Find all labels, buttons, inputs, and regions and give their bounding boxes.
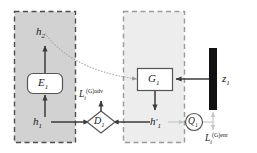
label-h1-prime-sub: 1 [157,122,161,130]
label-q-network-base: Q [188,116,195,126]
label-h1-prime: h′1 [150,115,161,130]
label-ent-loss-sup: (G)ent [212,132,228,138]
label-generator: G1 [148,72,159,87]
label-encoder: E1 [38,76,48,91]
label-discriminator: D1 [94,115,104,128]
label-adv-loss-sub: i [84,95,86,101]
label-h2-sub: 2 [42,32,46,40]
label-encoder-sub: 1 [45,83,49,91]
label-adv-loss-sup: (G)adv [86,88,103,94]
label-generator-sub: 1 [156,79,160,87]
z1-latent-block [209,48,217,110]
label-encoder-base: E [38,76,45,88]
label-q-network: Q1 [188,116,198,128]
label-adversarial-loss: Li(G)adv [79,88,103,101]
label-h1: h1 [33,115,42,130]
label-generator-base: G [148,72,156,84]
label-ent-loss-sub: i [210,139,212,145]
diagram-canvas: h2 E1 h1 G1 h′1 z1 D1 Q1 Li(G)adv Li(G)e… [0,0,257,153]
label-entropy-loss: Li(G)ent [205,132,228,145]
label-h1-sub: 1 [39,122,43,130]
label-z1: z1 [222,72,230,87]
label-h2: h2 [36,25,45,40]
label-z1-sub: 1 [226,79,230,87]
label-q-network-sub: 1 [195,122,198,128]
label-discriminator-sub: 1 [101,121,104,128]
